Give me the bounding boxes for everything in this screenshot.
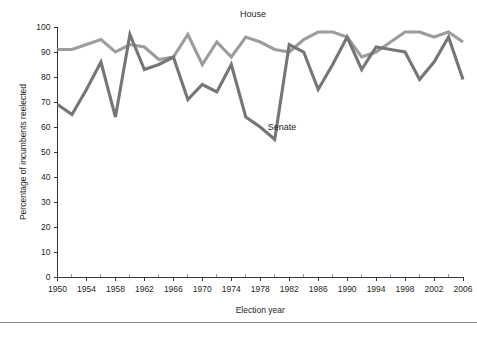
x-tick-label: 1990	[338, 284, 357, 294]
y-tick-label: 80	[41, 72, 51, 82]
x-tick-label: 1994	[367, 284, 386, 294]
figure-container: 0102030405060708090100195019541958196219…	[0, 0, 477, 338]
x-tick-label: 1982	[280, 284, 299, 294]
x-tick-label: 1986	[309, 284, 328, 294]
y-tick-label: 0	[46, 272, 51, 282]
y-tick-label: 10	[41, 247, 51, 257]
x-tick-label: 1962	[135, 284, 154, 294]
y-axis-title: Percentage of incumbents reelected	[18, 84, 28, 220]
footer-divider	[0, 322, 477, 323]
series-label-senate: Senate	[268, 122, 297, 132]
y-tick-label: 30	[41, 197, 51, 207]
x-tick-label: 1998	[396, 284, 415, 294]
y-tick-label: 50	[41, 147, 51, 157]
x-tick-label: 2002	[425, 284, 444, 294]
series-label-house: House	[240, 9, 266, 19]
y-tick-label: 70	[41, 97, 51, 107]
x-tick-label: 1978	[251, 284, 270, 294]
x-tick-label: 1954	[77, 284, 96, 294]
x-tick-label: 1970	[193, 284, 212, 294]
line-chart: 0102030405060708090100195019541958196219…	[0, 0, 477, 338]
x-tick-label: 1974	[222, 284, 241, 294]
y-tick-label: 100	[36, 22, 50, 32]
y-tick-label: 40	[41, 172, 51, 182]
y-tick-label: 90	[41, 47, 51, 57]
y-tick-label: 20	[41, 222, 51, 232]
series-line-house	[58, 32, 464, 65]
x-tick-label: 1950	[48, 284, 67, 294]
x-axis-title: Election year	[236, 305, 285, 315]
x-tick-label: 1966	[164, 284, 183, 294]
x-tick-label: 1958	[106, 284, 125, 294]
y-tick-label: 60	[41, 122, 51, 132]
x-tick-label: 2006	[454, 284, 473, 294]
